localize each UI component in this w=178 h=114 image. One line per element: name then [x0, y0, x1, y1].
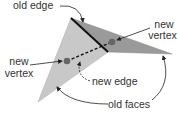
- new-vertex-left-label-line2: vertex: [2, 68, 36, 79]
- new-vertex-right-label-line2: vertex: [147, 30, 178, 41]
- old-edge-label: old edge: [13, 0, 53, 11]
- new-vertex-left-label-line1: new: [4, 56, 34, 67]
- old-faces-label: old faces: [108, 99, 150, 110]
- new-vertex-right-arrow: [117, 28, 150, 40]
- old-faces-arrow-right: [152, 56, 166, 100]
- new-edge-label: new edge: [92, 76, 138, 87]
- old-faces-arrow-left: [57, 87, 108, 104]
- edge-split-diagram: old edge new vertex new vertex new edge …: [0, 0, 178, 114]
- new-vertex-left: [64, 58, 71, 65]
- new-vertex-right: [109, 39, 116, 46]
